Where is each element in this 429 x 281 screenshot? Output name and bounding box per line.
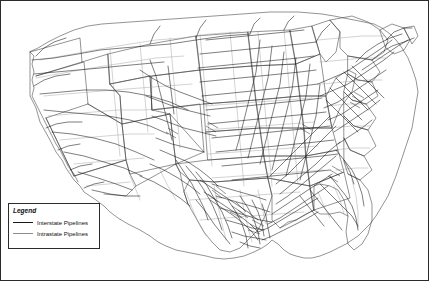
legend-item-intrastate: Intrastate Pipelines <box>13 228 96 239</box>
legend-title: Legend <box>13 206 96 215</box>
interstate-line-swatch <box>13 222 33 223</box>
map-legend: Legend Interstate Pipelines Intrastate P… <box>8 203 100 249</box>
intrastate-line-swatch <box>13 233 33 234</box>
legend-item-interstate: Interstate Pipelines <box>13 217 96 228</box>
legend-label-intrastate: Intrastate Pipelines <box>37 230 88 238</box>
pipeline-map-figure: Legend Interstate Pipelines Intrastate P… <box>0 0 429 281</box>
legend-label-interstate: Interstate Pipelines <box>37 219 88 227</box>
